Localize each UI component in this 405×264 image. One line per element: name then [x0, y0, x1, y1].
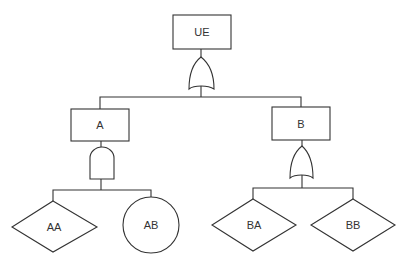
ue-label: UE: [194, 26, 209, 38]
bus-ue-children: [100, 97, 301, 109]
fault-tree-diagram: UE A AA AB B BA BB: [0, 0, 405, 264]
bus-a-children: [53, 190, 151, 201]
bb-label: BB: [346, 219, 361, 231]
b-label: B: [297, 118, 304, 130]
aa-label: AA: [47, 221, 62, 233]
node-bb: BB: [311, 199, 395, 251]
node-ab: AB: [123, 197, 179, 253]
or-gate-b-icon: [290, 146, 313, 178]
and-gate-a-icon: [90, 147, 114, 179]
node-b: B: [272, 107, 330, 140]
ab-label: AB: [144, 219, 159, 231]
node-a: A: [71, 109, 129, 141]
node-ba: BA: [212, 199, 296, 251]
or-gate-ue-icon: [189, 57, 214, 89]
node-aa: AA: [12, 201, 97, 252]
a-label: A: [96, 119, 104, 131]
bus-b-children: [253, 188, 353, 199]
ba-label: BA: [247, 219, 262, 231]
node-ue: UE: [173, 15, 231, 49]
